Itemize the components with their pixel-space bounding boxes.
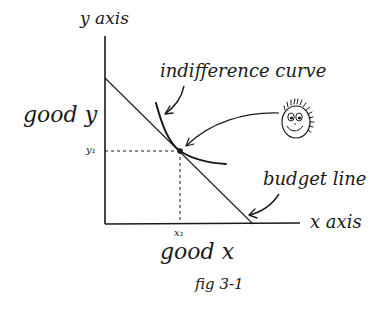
budget-arrow bbox=[249, 194, 279, 215]
y1-label: y₁ bbox=[86, 145, 96, 155]
diagram-canvas bbox=[0, 0, 380, 325]
indifference-curve-label: indifference curve bbox=[160, 62, 326, 80]
y-axis-label: y axis bbox=[80, 10, 129, 27]
x1-label: x₁ bbox=[174, 228, 184, 238]
face-arrow bbox=[186, 113, 279, 146]
budget-line-label: budget line bbox=[263, 170, 367, 188]
figure-caption: fig 3-1 bbox=[195, 277, 244, 292]
tangency-point bbox=[177, 148, 183, 154]
smiley-face-icon bbox=[282, 99, 314, 138]
x-axis-line bbox=[105, 223, 300, 224]
good-y-label: good y bbox=[23, 104, 97, 126]
good-x-label: good x bbox=[160, 241, 234, 263]
x-axis-label: x axis bbox=[310, 213, 362, 231]
